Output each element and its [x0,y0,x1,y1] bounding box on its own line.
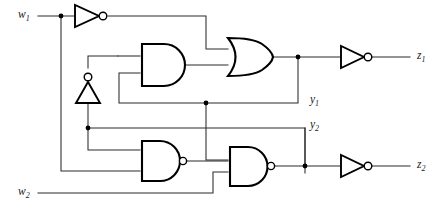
wire-w2-to-nand2 [38,172,228,193]
wire-y1-to-nand2 [206,103,228,160]
not-gate-w1-bubble [99,12,107,20]
input-label-w1: w1 [18,9,30,23]
junction-dots [59,14,308,169]
not-gate-z2-bubble [364,162,372,170]
not-gate-w1[interactable] [75,5,107,27]
or-gate-1[interactable] [228,38,273,76]
junction-z1-node [296,55,301,60]
nand-gate-2-bubble [267,162,274,169]
input-label-w2: w2 [18,186,30,200]
signal-label-y2: y2 [310,119,319,133]
not-gate-z1[interactable] [341,46,372,68]
schematic-canvas [0,0,443,218]
junction-invup-output [86,126,91,131]
not-gate-z2[interactable] [341,155,372,177]
logic-circuit-diagram: w1 w2 z1 z2 y1 y2 [0,0,443,218]
output-label-z1: z1 [417,50,425,64]
junction-w1 [59,14,64,19]
junction-z2-node [303,164,308,169]
not-gate-up[interactable] [76,73,100,103]
nand-gate-1[interactable] [142,141,187,181]
nand-gate-2[interactable] [230,147,275,186]
output-label-z2: z2 [417,159,425,173]
wire-w1-to-nand1 [61,16,140,171]
not-gate-z1-bubble [364,53,372,61]
nand-gate-1-bubble [179,157,186,164]
wire-invup-node-to-nand1 [88,128,140,150]
junction-y1 [204,101,209,106]
wire-invup-out-to-and1 [88,56,118,68]
signal-label-y1: y1 [310,94,319,108]
and-gate-1[interactable] [142,44,185,86]
not-gate-up-bubble [84,73,92,81]
